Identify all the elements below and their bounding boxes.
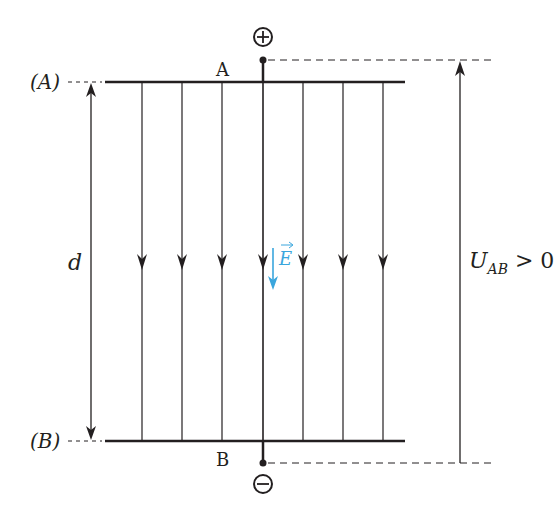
distance-label: d (68, 250, 82, 275)
field-lines (142, 62, 383, 441)
capacitor-field-diagram: (A) (B) d A B (0, 0, 558, 516)
plate-b-label: B (216, 449, 229, 470)
plate-b-side-label: (B) (30, 429, 60, 453)
plate-a-side-label: (A) (30, 70, 60, 94)
voltage-label: UAB > 0 (469, 248, 554, 277)
field-vector (268, 248, 278, 290)
positive-terminal-icon (254, 28, 272, 46)
negative-terminal-dot (260, 460, 267, 467)
field-vector-label: E (278, 248, 292, 269)
positive-terminal-dot (260, 57, 267, 64)
negative-terminal-icon (254, 475, 272, 493)
plate-a-label: A (215, 59, 230, 80)
